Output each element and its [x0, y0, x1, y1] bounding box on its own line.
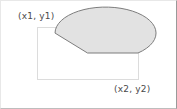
arc-bounding-box-figure: (x1, y1) (x2, y2) [0, 0, 177, 109]
pie-wedge-shape [55, 7, 156, 53]
point-label-x2-y2: (x2, y2) [114, 84, 150, 95]
point-label-x1-y1: (x1, y1) [18, 11, 54, 22]
